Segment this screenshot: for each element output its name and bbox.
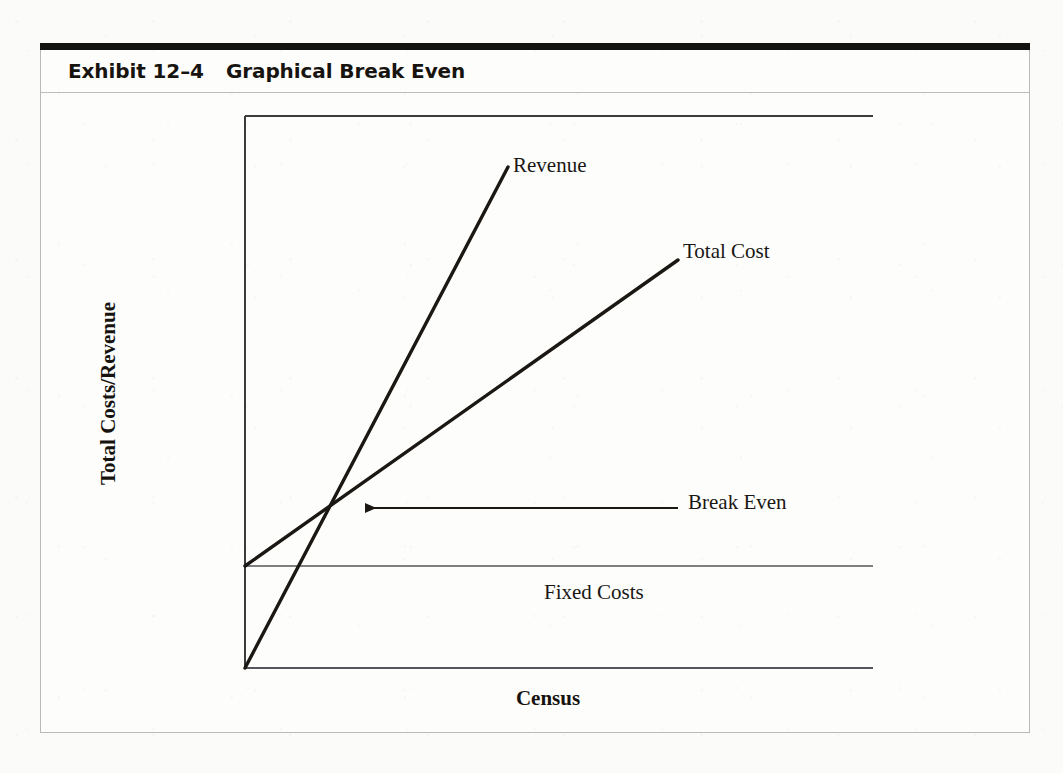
series-label-fixed-costs: Fixed Costs	[544, 580, 644, 605]
exhibit-header: Exhibit 12–4Graphical Break Even	[41, 50, 1029, 93]
exhibit-title: Graphical Break Even	[226, 59, 465, 83]
total-cost-line	[245, 260, 678, 566]
series-label-total-cost: Total Cost	[683, 239, 770, 264]
annotation-label-break-even: Break Even	[688, 490, 787, 515]
chart-plot-svg	[41, 94, 1029, 732]
series-label-revenue: Revenue	[513, 153, 586, 178]
exhibit-caption: Exhibit 12–4Graphical Break Even	[68, 59, 465, 83]
y-axis-label: Total Costs/Revenue	[96, 264, 121, 524]
x-axis-label: Census	[448, 686, 648, 711]
break-even-chart: Total Costs/Revenue Census Revenue Total…	[41, 94, 1029, 732]
exhibit-top-rule	[40, 43, 1030, 50]
exhibit-number: Exhibit 12–4	[68, 59, 204, 83]
revenue-line	[245, 167, 508, 668]
